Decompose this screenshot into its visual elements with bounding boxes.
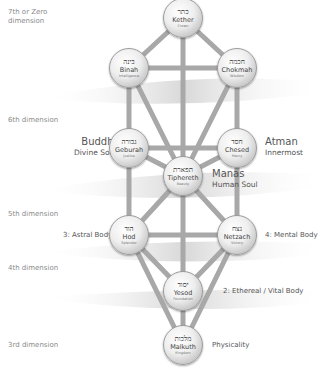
dimension-label-6: 6th dimension <box>8 116 58 125</box>
sephirah-meaning: Intelligence <box>119 74 139 79</box>
sephirah-name: Chesed <box>225 146 249 154</box>
sephirah-name: Binah <box>120 66 139 74</box>
ethereal-body-label: 2: Ethereal / Vital Body <box>223 287 303 295</box>
astral-body-label: 3: Astral Body <box>63 231 112 239</box>
manas-label: Manas Human Soul <box>212 168 258 190</box>
sephirah-malkuth: מלכותMalkuthKingdom <box>163 325 203 365</box>
hebrew-name: הוד <box>124 225 133 233</box>
hebrew-name: בינה <box>123 58 135 66</box>
sephirah-meaning: Victory <box>231 241 243 246</box>
background-bands <box>0 0 328 372</box>
sephirah-meaning: Foundation <box>173 297 193 302</box>
sephirah-chokmah: חכמהChokmahWisdom <box>217 48 257 88</box>
hebrew-name: נצח <box>232 225 242 233</box>
sephirah-name: Chokmah <box>222 66 253 74</box>
hebrew-name: יסוד <box>178 281 189 289</box>
dimension-label-3: 3rd dimension <box>8 341 58 350</box>
dimension-label-4: 4th dimension <box>8 264 58 273</box>
atman-label: Atman Innermost <box>265 136 303 158</box>
sephirah-meaning: Crown <box>177 24 188 29</box>
physicality-label: Physicality <box>212 341 249 349</box>
sephirah-name: Kether <box>172 16 193 24</box>
hebrew-name: גבורה <box>122 138 137 146</box>
dimension-label-7: 7th or Zero dimension <box>8 8 47 26</box>
hebrew-name: חסד <box>231 138 243 146</box>
sephirah-binah: בינהBinahIntelligence <box>109 48 149 88</box>
sephirah-chesed: חסדChesedMercy <box>217 128 257 168</box>
manas-subtitle: Human Soul <box>212 180 258 190</box>
dimension-label-5: 5th dimension <box>8 210 58 219</box>
sephirah-hod: הודHodSplendor <box>109 215 149 255</box>
sephirah-name: Yesod <box>174 289 193 297</box>
sephirah-meaning: Justice <box>123 154 135 159</box>
sephirah-name: Hod <box>123 233 136 241</box>
tree-of-life-diagram: 7th or Zero dimension 6th dimension 5th … <box>0 0 328 372</box>
sephirah-name: Netzach <box>224 233 251 241</box>
atman-title: Atman <box>265 136 303 148</box>
atman-subtitle: Innermost <box>265 148 303 158</box>
sephirah-netzach: נצחNetzachVictory <box>217 215 257 255</box>
sephirah-meaning: Kingdom <box>175 351 190 356</box>
hebrew-name: מלכות <box>175 335 192 343</box>
sephirah-meaning: Mercy <box>232 154 243 159</box>
sephirah-name: Malkuth <box>170 343 196 351</box>
sephirah-yesod: יסודYesodFoundation <box>163 271 203 311</box>
sephirah-meaning: Wisdom <box>230 74 244 79</box>
sephirah-name: Geburah <box>115 146 143 154</box>
sephirah-name: Tiphereth <box>167 174 198 182</box>
hebrew-name: חכמה <box>229 58 245 66</box>
sephirah-geburah: גבורהGeburahJustice <box>109 128 149 168</box>
mental-body-label: 4: Mental Body <box>265 231 318 239</box>
hebrew-name: תפארת <box>173 166 193 174</box>
sephirah-meaning: Beauty <box>177 182 189 187</box>
sephirah-tiphereth: תפארתTipherethBeauty <box>163 156 203 196</box>
sephirah-meaning: Splendor <box>121 241 137 246</box>
hebrew-name: כתר <box>177 8 188 16</box>
manas-title: Manas <box>212 168 258 180</box>
